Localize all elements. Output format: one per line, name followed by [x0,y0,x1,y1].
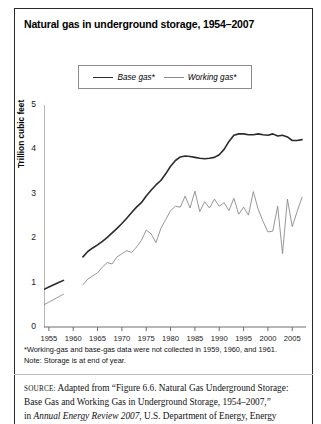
legend-item-base-gas: Base gas* [93,73,154,82]
x-tick-label: 1970 [109,334,135,343]
x-tick-label: 2000 [255,334,281,343]
y-tick-label: 4 [22,143,36,153]
x-tick-label: 1960 [60,334,86,343]
x-tick-label: 1990 [206,334,232,343]
y-tick-label: 2 [22,232,36,242]
x-tick-label: 1985 [182,334,208,343]
footnote-line-2: Note: Storage is at end of year. [24,356,308,367]
source-line-3-pre: in [24,411,34,421]
plot-area [44,100,310,332]
legend-item-working-gas: Working gas* [164,73,237,82]
chart-legend: Base gas* Working gas* [78,65,252,89]
chart-svg [44,100,310,332]
y-tick-label: 5 [22,99,36,109]
figure-root: Natural gas in underground storage, 1954… [0,0,321,424]
y-tick-label: 0 [22,321,36,331]
figure-border-left [14,8,15,424]
source-line-2: Base Gas and Working Gas in Underground … [24,397,271,407]
x-tick-label: 2005 [279,334,305,343]
y-tick-label: 1 [22,277,36,287]
source-label: SOURCE: [24,385,56,393]
legend-swatch-working-gas-icon [164,77,184,78]
figure-border-right [312,8,313,424]
x-tick-label: 1980 [158,334,184,343]
x-tick-label: 1965 [85,334,111,343]
figure-footnote: *Working-gas and base-gas data were not … [24,345,308,366]
figure-border-top [14,8,313,9]
source-line-3-post: , U.S. Department of Energy, Energy [139,411,276,421]
figure-source: SOURCE: Adapted from “Figure 6.6. Natura… [24,382,310,423]
y-tick-label: 3 [22,188,36,198]
footnote-line-1: *Working-gas and base-gas data were not … [24,345,308,356]
source-line-1: Adapted from “Figure 6.6. Natural Gas Un… [56,383,289,393]
x-tick-label: 1975 [133,334,159,343]
x-tick-label: 1955 [36,334,62,343]
y-axis-title: Trillion cubic feet [16,156,26,168]
x-tick-label: 1995 [231,334,257,343]
legend-swatch-base-gas-icon [93,77,113,78]
legend-label-working-gas: Working gas* [188,73,237,82]
legend-label-base-gas: Base gas* [117,73,154,82]
figure-title: Natural gas in underground storage, 1954… [24,18,304,31]
figure-border-bottom [14,374,313,375]
source-publication-title: Annual Energy Review 2007 [34,411,140,421]
